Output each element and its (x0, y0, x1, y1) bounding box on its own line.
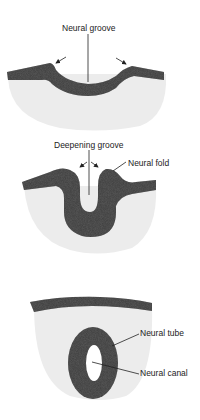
stage-1-neural-groove: Neural groove (7, 23, 166, 131)
arrow-right-2 (91, 162, 98, 167)
stage-2-deepening-groove: Deepening groove Neural fold (22, 140, 169, 254)
neural-tube-formation-diagram: Neural groove Deepening groove Neural fo… (0, 0, 200, 420)
stage-3-neural-tube: Neural tube Neural canal (30, 297, 188, 400)
mesoderm-shape-1 (8, 74, 166, 131)
neural-canal (86, 345, 102, 381)
arrow-left-2 (80, 162, 87, 167)
label-deepening-groove: Deepening groove (54, 140, 124, 150)
label-neural-fold: Neural fold (128, 158, 169, 168)
label-neural-canal: Neural canal (140, 368, 188, 378)
label-neural-groove: Neural groove (62, 23, 116, 33)
arrow-left-1 (56, 57, 66, 63)
label-neural-tube: Neural tube (140, 328, 184, 338)
arrow-right-1 (116, 58, 126, 64)
neural-fold-pointer (113, 162, 126, 171)
